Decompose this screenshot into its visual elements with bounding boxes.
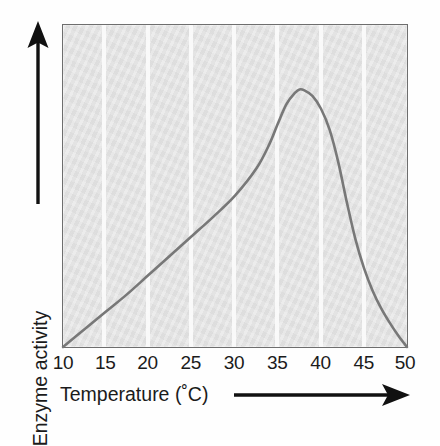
x-axis-title: Temperature (˚C) (60, 380, 208, 408)
y-axis-title-wrap: Enzyme activity (38, 218, 62, 378)
x-tick-45: 45 (342, 351, 386, 375)
arrow-up-icon (16, 18, 60, 204)
x-tick-25: 25 (169, 351, 213, 375)
plot-area (62, 24, 408, 348)
x-tick-30: 30 (212, 351, 256, 375)
x-tick-20: 20 (126, 351, 170, 375)
x-axis-label-group: Temperature (˚C) (60, 380, 420, 410)
arrow-right-icon (232, 383, 412, 407)
curve-path (63, 89, 407, 347)
enzyme-activity-curve (63, 25, 407, 347)
y-axis-title: Enzyme activity (31, 310, 51, 445)
x-tick-50: 50 (383, 351, 427, 375)
x-tick-15: 15 (83, 351, 127, 375)
x-tick-40: 40 (299, 351, 343, 375)
x-tick-labels: 10 15 20 25 30 35 40 45 50 (0, 351, 440, 377)
x-tick-35: 35 (255, 351, 299, 375)
y-axis-label-group: Enzyme activity (16, 18, 60, 354)
